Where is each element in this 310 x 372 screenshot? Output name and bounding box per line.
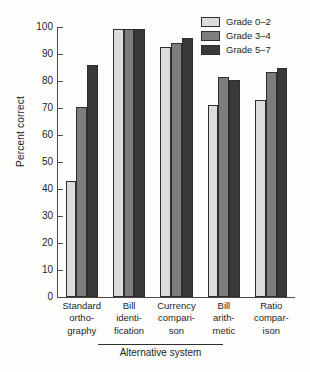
x-category-line: son	[151, 325, 203, 337]
x-category-line: compari-	[151, 312, 203, 324]
x-category-line: fication	[103, 325, 155, 337]
y-tick-label: 90	[42, 47, 53, 60]
y-tick-0: 0	[57, 297, 63, 298]
bar	[171, 43, 182, 297]
bar-group	[160, 27, 192, 297]
x-category-line: Standard	[56, 300, 108, 312]
x-axis-line	[57, 297, 295, 298]
bar	[218, 77, 229, 297]
x-category-line: Currency	[151, 300, 203, 312]
bar-group	[208, 27, 240, 297]
y-tick-mark	[58, 297, 63, 298]
legend-label: Grade 5–7	[226, 44, 271, 55]
y-tick-label: 0	[47, 290, 53, 303]
legend-item: Grade 3–4	[201, 29, 305, 42]
x-category-line: Bill	[103, 300, 155, 312]
legend-swatch	[201, 17, 220, 27]
bar	[160, 47, 171, 297]
x-category-label: Billidenti-fication	[103, 300, 155, 337]
y-tick-label: 40	[42, 182, 53, 195]
x-category-line: ortho-	[56, 312, 108, 324]
bar	[124, 29, 135, 297]
y-tick-label: 50	[42, 155, 53, 168]
y-axis-title: Percent correct	[15, 72, 26, 192]
bar	[76, 107, 87, 297]
bar	[255, 100, 266, 297]
bar	[182, 38, 193, 297]
bar-chart-figure: Percent correct 0102030405060708090100 S…	[0, 0, 310, 372]
x-category-line: Bill	[198, 300, 250, 312]
x-category-line: arith-	[198, 312, 250, 324]
legend-item: Grade 5–7	[201, 43, 305, 56]
x-axis-group-rule	[98, 344, 223, 345]
x-axis-group-label: Alternative system	[98, 347, 223, 358]
x-category-line: metic	[198, 325, 250, 337]
plot-area: 0102030405060708090100	[57, 27, 295, 298]
y-tick-label: 30	[42, 209, 53, 222]
bar	[134, 29, 145, 297]
y-tick-label: 10	[42, 263, 53, 276]
x-category-label: Billarith-metic	[198, 300, 250, 337]
bar-group	[255, 27, 287, 297]
x-axis-category-labels: Standardortho-graphyBillidenti-ficationC…	[58, 300, 295, 346]
bar	[208, 105, 219, 297]
bar	[66, 181, 77, 297]
y-tick-label: 20	[42, 236, 53, 249]
legend: Grade 0–2Grade 3–4Grade 5–7	[201, 15, 305, 57]
legend-label: Grade 0–2	[226, 16, 271, 27]
bar-series-container	[58, 27, 295, 297]
bar-group	[113, 27, 145, 297]
x-category-label: Currencycompari-son	[151, 300, 203, 337]
bar	[113, 29, 124, 297]
bar-group	[66, 27, 98, 297]
legend-swatch	[201, 45, 220, 55]
x-axis-group-title: Alternative system	[98, 344, 223, 358]
x-category-label: Standardortho-graphy	[56, 300, 108, 337]
y-tick-label: 80	[42, 74, 53, 87]
y-tick-label: 100	[36, 20, 53, 33]
x-category-label: Ratiocompar-ison	[245, 300, 297, 337]
y-tick-label: 60	[42, 128, 53, 141]
bar	[229, 80, 240, 297]
bar	[87, 65, 98, 297]
legend-label: Grade 3–4	[226, 30, 271, 41]
legend-swatch	[201, 31, 220, 41]
x-category-line: compar-	[245, 312, 297, 324]
legend-item: Grade 0–2	[201, 15, 305, 28]
bar	[277, 68, 288, 298]
x-category-line: Ratio	[245, 300, 297, 312]
bar	[266, 72, 277, 297]
x-category-line: graphy	[56, 325, 108, 337]
x-category-line: ison	[245, 325, 297, 337]
y-tick-label: 70	[42, 101, 53, 114]
x-category-line: identi-	[103, 312, 155, 324]
